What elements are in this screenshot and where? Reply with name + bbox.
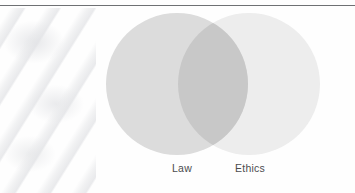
- venn-label-law: Law: [152, 162, 212, 175]
- venn-figure: Law Ethics: [0, 0, 355, 193]
- venn-label-ethics: Ethics: [218, 162, 282, 175]
